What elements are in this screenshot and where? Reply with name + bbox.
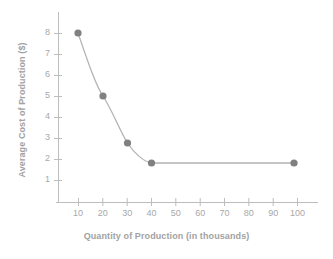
data-curve	[78, 33, 297, 163]
y-tick-label-1: 1	[34, 174, 50, 184]
x-tick-label-100: 100	[287, 208, 309, 218]
x-tick-label-50: 50	[165, 208, 187, 218]
y-tick-label-4: 4	[34, 111, 50, 121]
x-axis-title: Quantity of Production (in thousands)	[0, 231, 333, 241]
y-tick-label-7: 7	[34, 48, 50, 58]
data-point	[148, 159, 155, 166]
x-tick-label-30: 30	[116, 208, 138, 218]
x-tick-label-70: 70	[214, 208, 236, 218]
plot-area	[0, 0, 333, 259]
y-tick-label-2: 2	[34, 153, 50, 163]
data-point	[74, 29, 81, 36]
x-tick-label-90: 90	[262, 208, 284, 218]
x-tick-label-60: 60	[189, 208, 211, 218]
y-tick-label-3: 3	[34, 132, 50, 142]
x-tick-label-80: 80	[238, 208, 260, 218]
chart-figure: 8 7 6 5 4 3 2 1 10 20 30 40 50 60 70 80 …	[0, 0, 333, 259]
y-tick-label-5: 5	[34, 90, 50, 100]
y-axis-title: Average Cost of Production ($)	[17, 25, 27, 195]
x-tick-label-40: 40	[141, 208, 163, 218]
data-point	[124, 139, 131, 146]
data-point	[99, 92, 106, 99]
data-point	[290, 159, 297, 166]
data-markers	[74, 29, 297, 166]
y-tick-label-6: 6	[34, 69, 50, 79]
x-tick-label-20: 20	[92, 208, 114, 218]
x-tick-label-10: 10	[67, 208, 89, 218]
y-tick-label-8: 8	[34, 27, 50, 37]
